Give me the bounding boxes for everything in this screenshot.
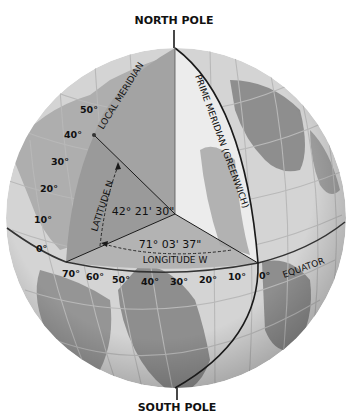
lon-tick: 0° [259, 270, 270, 281]
lon-tick: 70° [62, 268, 80, 279]
lon-tick: 10° [228, 271, 246, 282]
lat-tick: 50° [80, 104, 98, 115]
lon-tick: 20° [199, 274, 217, 285]
lat-tick: 20° [40, 183, 58, 194]
globe [4, 48, 347, 400]
globe-diagram: NORTH POLE SOUTH POLE LOCAL MERIDIAN PRI… [0, 0, 352, 414]
location-point [92, 133, 96, 137]
lon-tick: 50° [112, 274, 130, 285]
south-pole-label: SOUTH POLE [138, 401, 217, 414]
lon-tick: 40° [141, 276, 159, 287]
longitude-axis-label: LONGITUDE W [143, 255, 208, 265]
latitude-value: 42° 21' 30" [112, 205, 175, 218]
lon-tick: 30° [170, 276, 188, 287]
lat-tick: 40° [64, 129, 82, 140]
longitude-value: 71° 03' 37" [139, 238, 202, 251]
lat-tick: 30° [51, 156, 69, 167]
north-pole-label: NORTH POLE [134, 14, 213, 27]
lon-tick: 60° [86, 271, 104, 282]
lat-tick: 0° [36, 243, 47, 254]
lat-tick: 10° [34, 214, 52, 225]
